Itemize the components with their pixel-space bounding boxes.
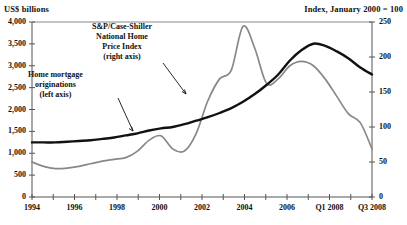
plot-area xyxy=(0,0,407,225)
series-line-0 xyxy=(32,26,372,169)
y-left-tick-label: 500 xyxy=(0,170,26,179)
x-tick-label: Q3 2008 xyxy=(348,203,396,212)
x-tick-label: 1998 xyxy=(93,203,141,212)
x-tick-label: 2002 xyxy=(178,203,226,212)
chart-container: US$ billions Index, January 2000 = 100 0… xyxy=(0,0,407,225)
case-shiller-annotation: S&P/Case-ShillerNational HomePrice Index… xyxy=(92,22,152,62)
y-right-tick-label: 100 xyxy=(379,122,405,131)
y-right-tick-label: 150 xyxy=(379,87,405,96)
annotation-line: Price Index xyxy=(92,42,152,52)
series-line-1 xyxy=(32,44,372,143)
y-left-tick-label: 0 xyxy=(0,192,26,201)
annotation-line: Home mortgage xyxy=(28,70,83,80)
annotation-leader-lines xyxy=(118,63,186,131)
y-left-tick-label: 3,000 xyxy=(0,61,26,70)
y-left-tick-label: 2,000 xyxy=(0,105,26,114)
x-tick-label: 2004 xyxy=(221,203,269,212)
leader-line-0 xyxy=(163,63,186,94)
y-right-tick-label: 0 xyxy=(379,192,405,201)
y-left-tick-label: 2,500 xyxy=(0,83,26,92)
y-right-tick-label: 250 xyxy=(379,17,405,26)
y-left-tick-label: 1,000 xyxy=(0,148,26,157)
axes-group xyxy=(29,22,375,200)
x-tick-label: Q1 2008 xyxy=(306,203,354,212)
x-tick-label: 2006 xyxy=(263,203,311,212)
x-tick-label: 1994 xyxy=(8,203,56,212)
annotation-line: National Home xyxy=(92,32,152,42)
annotation-line: S&P/Case-Shiller xyxy=(92,22,152,32)
y-right-tick-label: 50 xyxy=(379,157,405,166)
series-group xyxy=(32,26,372,169)
leader-line-1 xyxy=(118,98,133,131)
x-tick-label: 2000 xyxy=(136,203,184,212)
annotation-line: (right axis) xyxy=(92,52,152,62)
annotation-line: (left axis) xyxy=(28,90,83,100)
originations-annotation: Home mortgageoriginations(left axis) xyxy=(28,70,83,100)
annotation-line: originations xyxy=(28,80,83,90)
y-left-tick-label: 1,500 xyxy=(0,126,26,135)
x-tick-label: 1996 xyxy=(51,203,99,212)
y-right-tick-label: 200 xyxy=(379,52,405,61)
y-left-tick-label: 3,500 xyxy=(0,39,26,48)
y-left-tick-label: 4,000 xyxy=(0,17,26,26)
